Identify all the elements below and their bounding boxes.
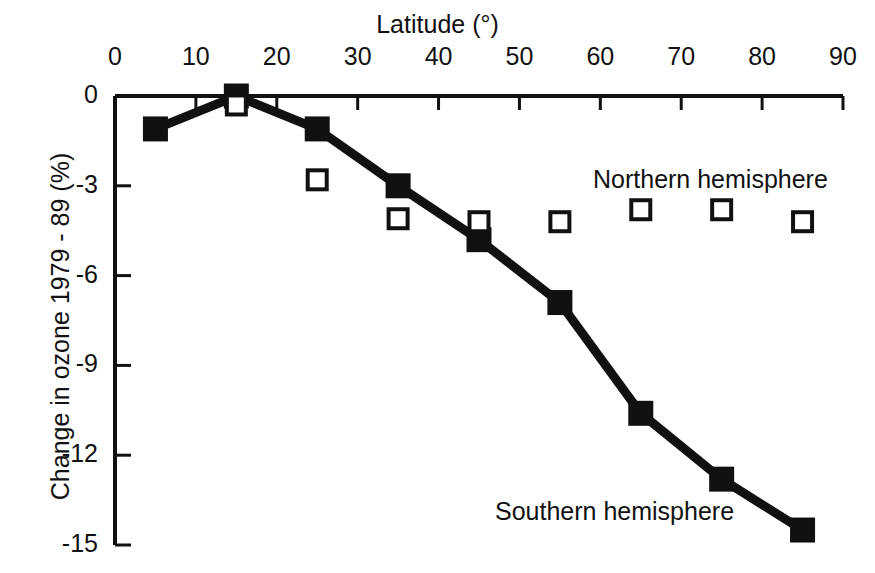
marker-open-25 (308, 170, 327, 189)
marker-open-15 (227, 95, 246, 114)
ozone-latitude-chart: Latitude (°) Change in ozone 1979 - 89 (… (0, 0, 875, 573)
marker-open-75 (712, 200, 731, 219)
marker-filled-65 (629, 402, 652, 425)
marker-open-35 (389, 209, 408, 228)
chart-plot-area (0, 0, 875, 573)
marker-open-45 (470, 212, 489, 231)
marker-filled-25 (306, 117, 329, 140)
marker-open-65 (631, 200, 650, 219)
marker-filled-85 (791, 519, 814, 542)
marker-open-55 (550, 212, 569, 231)
series-label-northern-hemisphere: Northern hemisphere (593, 165, 828, 194)
data-series-group (144, 85, 814, 542)
marker-filled-55 (548, 291, 571, 314)
marker-filled-5 (144, 117, 167, 140)
series-line-0 (155, 96, 802, 530)
marker-filled-75 (710, 468, 733, 491)
marker-filled-35 (387, 174, 410, 197)
marker-open-85 (793, 212, 812, 231)
series-label-southern-hemisphere: Southern hemisphere (495, 497, 734, 526)
